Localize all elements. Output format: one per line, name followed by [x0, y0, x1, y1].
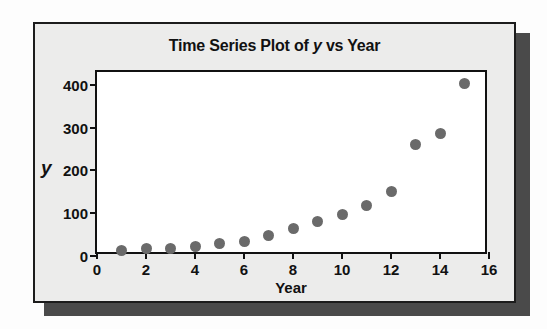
y-axis-tick-mark — [90, 212, 97, 214]
y-axis-tick-label: 400 — [63, 76, 88, 93]
x-axis-tick-label: 14 — [432, 261, 449, 278]
scanned-page-background: Copy and Time Model Resid Residual Plot … — [0, 0, 547, 329]
x-axis-tick-mark — [488, 252, 490, 259]
data-point-marker — [410, 139, 421, 150]
x-axis-tick-mark — [292, 252, 294, 259]
x-axis-tick-mark — [243, 252, 245, 259]
y-axis-tick-label: 300 — [63, 119, 88, 136]
data-point-marker — [214, 238, 225, 249]
y-axis-tick-label: 200 — [63, 162, 88, 179]
plot-frame: 01002003004000246810121416 — [95, 70, 487, 254]
x-axis-tick-mark — [194, 252, 196, 259]
y-axis-tick-mark — [90, 127, 97, 129]
data-point-marker — [337, 209, 348, 220]
x-axis-tick-label: 6 — [240, 261, 248, 278]
data-point-marker — [459, 78, 470, 89]
x-axis-tick-label: 2 — [142, 261, 150, 278]
x-axis-tick-label: 8 — [289, 261, 297, 278]
chart-title: Time Series Plot of y vs Year — [35, 37, 514, 55]
x-axis-tick-label: 4 — [191, 261, 199, 278]
data-point-marker — [190, 241, 201, 252]
y-axis-tick-label: 0 — [80, 248, 88, 265]
chart-title-suffix: vs Year — [322, 37, 381, 54]
data-point-marker — [435, 128, 446, 139]
data-point-marker — [288, 223, 299, 234]
x-axis-tick-mark — [96, 252, 98, 259]
data-point-marker — [165, 243, 176, 254]
data-point-marker — [116, 245, 127, 256]
x-axis-tick-label: 10 — [334, 261, 351, 278]
data-point-marker — [361, 200, 372, 211]
y-axis-title: y — [41, 157, 52, 179]
x-axis-tick-mark — [341, 252, 343, 259]
chart-title-prefix: Time Series Plot of — [169, 37, 313, 54]
chart-figure-card: Time Series Plot of y vs Year y 01002003… — [33, 22, 516, 303]
y-axis-tick-label: 100 — [63, 205, 88, 222]
y-axis-tick-mark — [90, 84, 97, 86]
x-axis-tick-label: 16 — [481, 261, 498, 278]
x-axis-tick-mark — [439, 252, 441, 259]
plot-canvas: 01002003004000246810121416 — [97, 72, 485, 252]
x-axis-title: Year — [95, 279, 487, 296]
data-point-marker — [239, 236, 250, 247]
data-point-marker — [141, 243, 152, 254]
chart-title-variable: y — [313, 37, 322, 54]
data-point-marker — [312, 216, 323, 227]
x-axis-tick-mark — [390, 252, 392, 259]
data-point-marker — [263, 230, 274, 241]
x-axis-tick-label: 0 — [93, 261, 101, 278]
y-axis-tick-mark — [90, 169, 97, 171]
data-point-marker — [386, 186, 397, 197]
x-axis-tick-label: 12 — [383, 261, 400, 278]
